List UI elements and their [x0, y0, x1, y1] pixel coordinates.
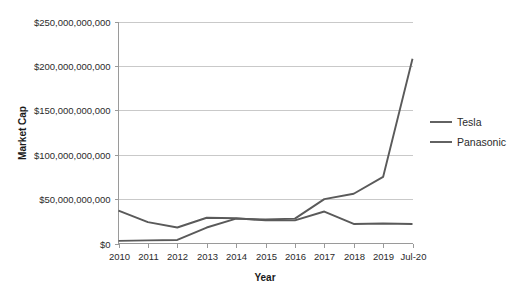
legend-label-panasonic: Panasonic: [457, 136, 506, 148]
y-tick-label: $0: [100, 239, 111, 250]
legend-label-tesla: Tesla: [457, 116, 482, 128]
x-tick-label: 2010: [109, 251, 130, 262]
x-axis-title: Year: [254, 272, 275, 283]
x-tick-label: 2013: [197, 251, 218, 262]
y-tick-label: $250,000,000,000: [34, 17, 111, 28]
y-tick-label: $200,000,000,000: [34, 61, 111, 72]
y-tick-label: $100,000,000,000: [34, 150, 111, 161]
x-tick-label: 2011: [138, 251, 158, 262]
chart-canvas: $0$50,000,000,000$100,000,000,000$150,00…: [0, 0, 517, 294]
x-tick-label: 2012: [167, 251, 188, 262]
market-cap-line-chart: $0$50,000,000,000$100,000,000,000$150,00…: [0, 0, 517, 294]
x-tick-label: 2015: [256, 251, 277, 262]
x-tick-label: 2019: [373, 251, 394, 262]
y-tick-label: $150,000,000,000: [34, 105, 111, 116]
x-tick-label: 2014: [226, 251, 247, 262]
x-tick-label: Jul-20: [401, 251, 427, 262]
y-tick-label: $50,000,000,000: [39, 194, 110, 205]
x-tick-labels-group: 2010201120122013201420152016201720182019…: [109, 251, 427, 262]
x-tick-label: 2018: [344, 251, 365, 262]
x-tick-label: 2017: [314, 251, 335, 262]
x-tick-label: 2016: [285, 251, 306, 262]
y-axis-title: Market Cap: [17, 106, 28, 160]
